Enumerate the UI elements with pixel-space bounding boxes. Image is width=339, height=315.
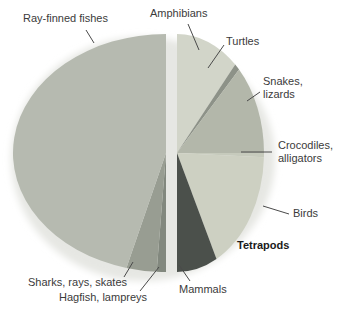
label-mammals: Mammals xyxy=(179,283,227,296)
leader-line-birds xyxy=(263,206,289,214)
label-snakes-lizards: Snakes, lizards xyxy=(263,75,303,101)
leader-line-ray-finned xyxy=(86,30,94,43)
label-tetrapods-group: Tetrapods xyxy=(237,239,289,252)
label-sharks-rays-skates: Sharks, rays, skates xyxy=(28,276,127,289)
label-ray-finned-fishes: Ray-finned fishes xyxy=(23,12,108,25)
label-birds: Birds xyxy=(293,207,318,220)
label-turtles: Turtles xyxy=(226,35,259,48)
vertebrate-diversity-pie-figure: Ray-finned fishes Amphibians Turtles Sna… xyxy=(0,0,339,315)
label-amphibians: Amphibians xyxy=(150,7,207,20)
label-hagfish-lampreys: Hagfish, lampreys xyxy=(59,291,147,304)
label-crocodiles-alligators: Crocodiles, alligators xyxy=(278,139,333,165)
